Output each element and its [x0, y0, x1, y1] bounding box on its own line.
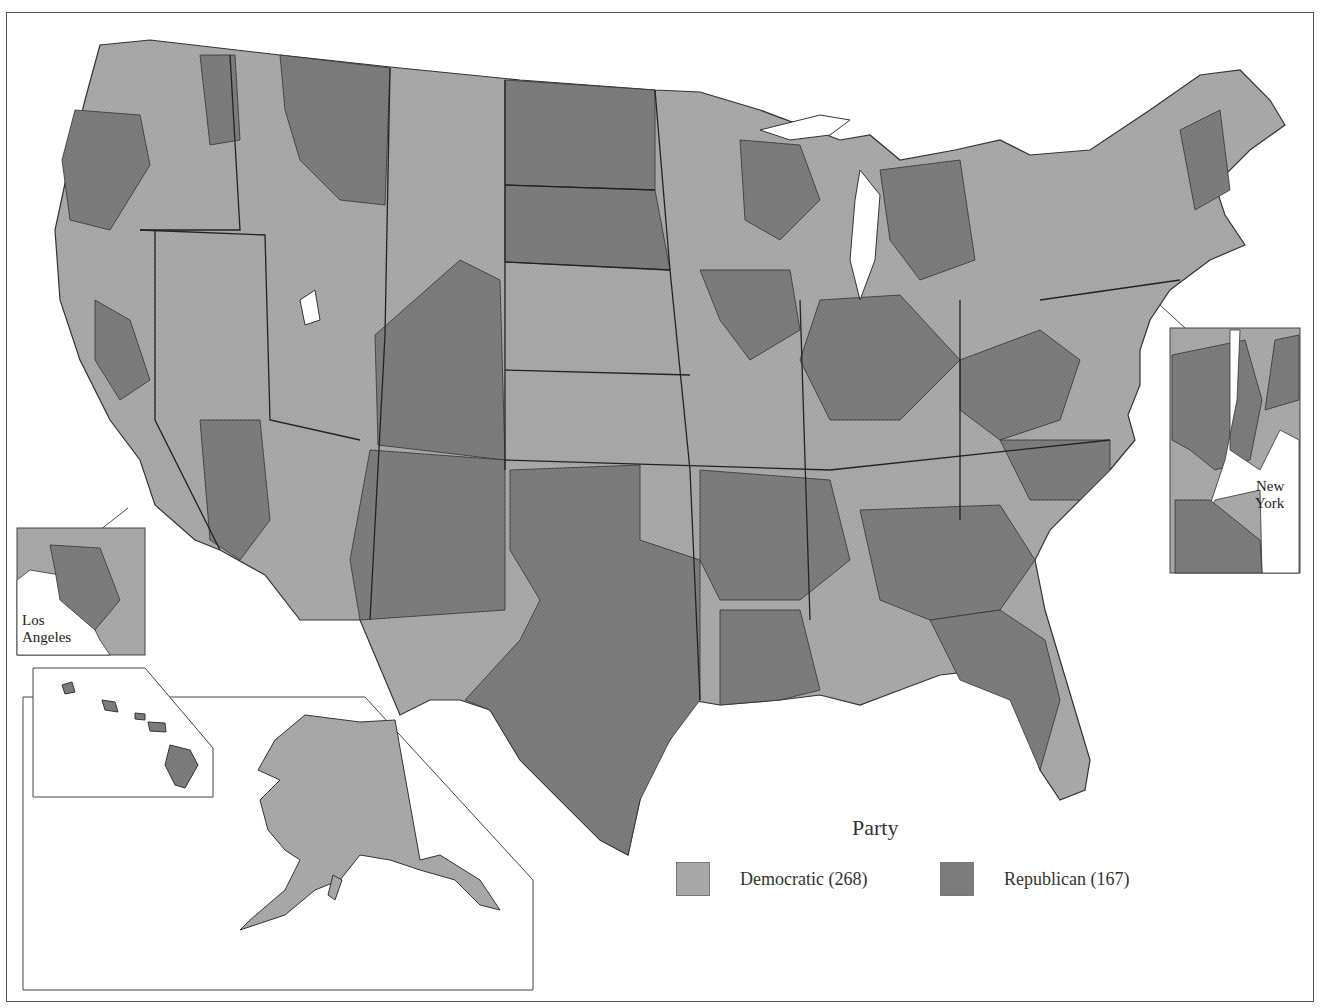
north-dakota-district	[505, 80, 655, 190]
new-york-label-line2: York	[1255, 495, 1284, 512]
republican-swatch	[940, 862, 974, 896]
legend-item-democratic: Democratic (268)	[676, 862, 867, 896]
us-congressional-district-map	[0, 0, 1320, 1008]
legend-label-democratic: Democratic (268)	[740, 869, 867, 890]
los-angeles-label-line1: Los	[22, 612, 71, 629]
new-york-inset	[1160, 305, 1300, 573]
legend-item-republican: Republican (167)	[940, 862, 1129, 896]
new-york-label-line1: New	[1255, 478, 1284, 495]
new-mexico-district	[350, 450, 505, 620]
los-angeles-label: Los Angeles	[22, 612, 71, 646]
legend-title: Party	[852, 815, 898, 841]
alaska	[240, 715, 500, 930]
democratic-swatch	[676, 862, 710, 896]
los-angeles-label-line2: Angeles	[22, 629, 71, 646]
south-dakota-district	[505, 185, 670, 270]
new-york-label: New York	[1255, 478, 1284, 512]
legend-label-republican: Republican (167)	[1004, 869, 1129, 890]
